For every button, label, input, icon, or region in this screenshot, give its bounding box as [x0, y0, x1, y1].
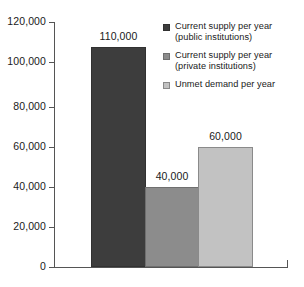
- legend-item-label: Current supply per year(private institut…: [175, 50, 272, 73]
- legend-item-public-supply[interactable]: Current supply per year(public instituti…: [163, 21, 303, 44]
- legend-swatch-icon: [163, 53, 170, 60]
- legend-item-label: Unmet demand per year: [175, 79, 275, 90]
- legend-item-unmet-demand[interactable]: Unmet demand per year: [163, 79, 303, 90]
- bar-value-label: 110,000: [91, 30, 146, 43]
- legend-swatch-icon: [163, 82, 170, 89]
- legend-item-label: Current supply per year(public instituti…: [175, 21, 272, 44]
- bar-chart: 0 20,000 40,000 60,000 80,000 100,000 12…: [0, 0, 304, 287]
- legend-swatch-icon: [163, 24, 170, 31]
- bar-unmet-demand[interactable]: [198, 147, 253, 267]
- legend-label-line2: (public institutions): [175, 32, 252, 42]
- bar-private-supply[interactable]: [145, 187, 199, 267]
- legend-label-line2: (private institutions): [175, 61, 256, 71]
- legend-item-private-supply[interactable]: Current supply per year(private institut…: [163, 50, 303, 73]
- bar-value-label: 40,000: [145, 170, 199, 183]
- chart-legend: Current supply per year(public instituti…: [163, 21, 303, 96]
- legend-label-line1: Current supply per year: [175, 50, 272, 60]
- legend-label-line1: Unmet demand per year: [175, 79, 275, 89]
- bar-value-label: 60,000: [198, 130, 253, 143]
- legend-label-line1: Current supply per year: [175, 21, 272, 31]
- bar-public-supply[interactable]: [91, 47, 146, 267]
